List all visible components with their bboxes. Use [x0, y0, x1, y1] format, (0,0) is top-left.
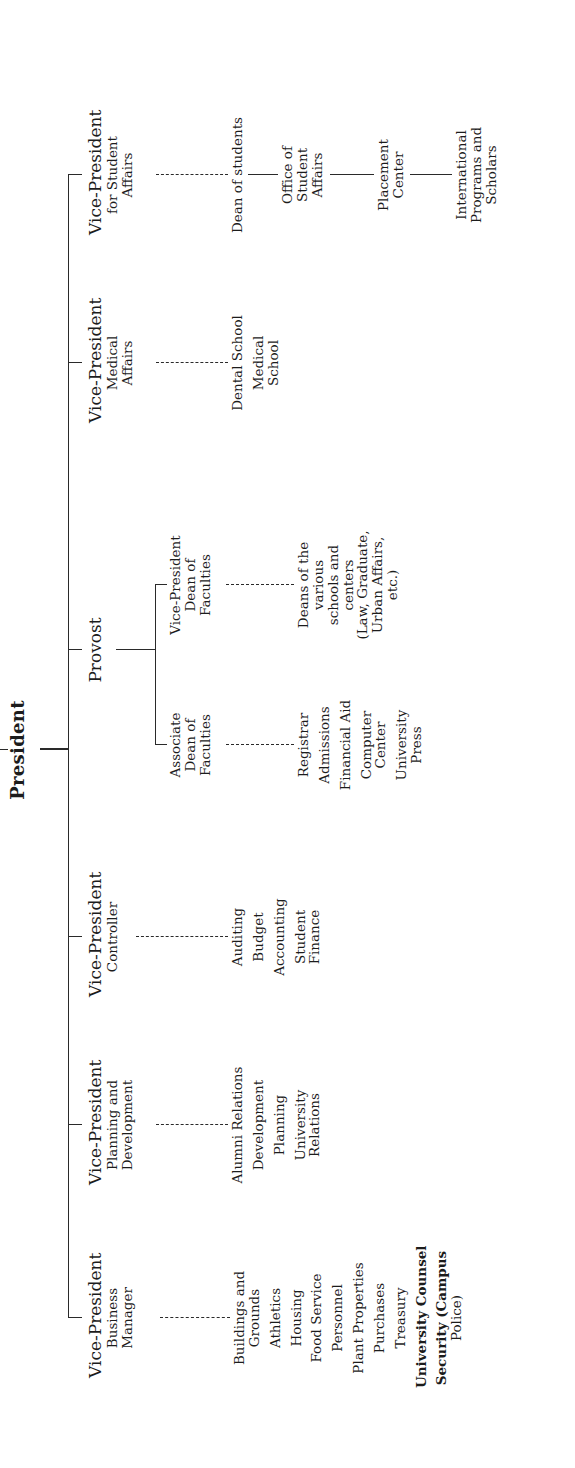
leaf-medical-school-1: Medical — [251, 293, 266, 433]
president-connector-top — [0, 749, 8, 750]
vp-business-manager-sub-1: Business — [105, 1258, 120, 1378]
office-student-affairs-3: Affairs — [310, 105, 325, 245]
drop-provost — [68, 649, 82, 650]
provost-node: Provost — [86, 600, 105, 700]
vp-controller-children: Auditing Budget Accounting Student Finan… — [230, 877, 322, 997]
chain-connector-3 — [410, 174, 452, 175]
leaf-buildings-2: Grounds — [247, 1248, 262, 1388]
vp-controller-node: Vice-President Controller — [86, 877, 120, 997]
international-programs: International Programs and Scholars — [454, 105, 499, 245]
president-node: President — [8, 700, 28, 800]
vp-student-affairs-sub-1: for Student — [105, 115, 120, 235]
international-programs-1: International — [454, 105, 469, 245]
vp-medical-title: Vice-President — [86, 303, 105, 423]
drop-vp-medical — [68, 362, 82, 363]
drop-associate-dean — [155, 744, 167, 745]
leaf-deans-6: Urban Affairs, — [370, 515, 385, 655]
international-programs-2: Programs and — [469, 105, 484, 245]
associate-dean-children: Registrar Admissions Financial Aid Compu… — [296, 675, 424, 815]
leaf-security-2: Police) — [449, 1248, 464, 1388]
leaf-purchases: Purchases — [372, 1248, 387, 1388]
vp-planning-sub-2: Development — [120, 1065, 135, 1185]
vp-student-affairs-sub-2: Affairs — [120, 115, 135, 235]
leaf-deans-3: schools and — [326, 515, 341, 655]
leaf-development: Development — [251, 1055, 266, 1195]
leaf-university-press-2: Press — [409, 675, 424, 815]
dean-of-students: Dean of students — [230, 105, 245, 245]
leaf-university-relations-2: Relations — [307, 1055, 322, 1195]
leaf-deans-2: various — [311, 515, 326, 655]
vp-dean-faculties-line-2: Dean of — [183, 525, 198, 645]
provost-connector — [116, 649, 155, 650]
placement-center: Placement Center — [376, 105, 406, 245]
leaf-buildings-1: Buildings and — [232, 1248, 247, 1388]
vp-medical-children: Dental School Medical School — [230, 293, 281, 433]
vp-business-manager-title: Vice-President — [86, 1258, 105, 1378]
leaf-personnel: Personnel — [330, 1248, 345, 1388]
leaf-planning: Planning — [272, 1055, 287, 1195]
associate-dean-connector — [226, 744, 294, 745]
vp-business-manager-connector — [160, 1317, 230, 1318]
drop-vp-student — [68, 174, 82, 175]
vp-planning-node: Vice-President Planning and Development — [86, 1065, 135, 1185]
vp-dean-faculties-connector — [226, 584, 294, 585]
placement-center-1: Placement — [376, 105, 391, 245]
leaf-budget: Budget — [251, 877, 266, 997]
leaf-athletics: Athletics — [268, 1248, 283, 1388]
vp-controller-title: Vice-President — [86, 877, 105, 997]
vp-medical-connector — [156, 362, 228, 363]
leaf-plant-properties: Plant Properties — [351, 1248, 366, 1388]
vp-medical-sub-2: Affairs — [120, 303, 135, 423]
associate-dean-line-1: Associate — [168, 685, 183, 805]
chain-connector-1 — [248, 174, 278, 175]
vp-dean-faculties-children: Deans of the various schools and centers… — [296, 515, 400, 655]
vp-student-affairs-node: Vice-President for Student Affairs — [86, 115, 135, 235]
leaf-medical-school-2: School — [266, 293, 281, 433]
leaf-deans-5: (Law, Graduate, — [355, 515, 370, 655]
international-programs-3: Scholars — [484, 105, 499, 245]
provost-title: Provost — [86, 600, 105, 700]
org-chart: President Vice-President Business Manage… — [0, 0, 575, 1468]
vp-dean-faculties-line-3: Faculties — [198, 525, 213, 645]
leaf-alumni-relations: Alumni Relations — [230, 1055, 245, 1195]
leaf-university-relations-1: University — [293, 1055, 308, 1195]
leaf-dental-school: Dental School — [230, 293, 245, 433]
president-connector — [40, 748, 68, 750]
leaf-housing: Housing — [289, 1248, 304, 1388]
vp-planning-title: Vice-President — [86, 1065, 105, 1185]
leaf-registrar: Registrar — [296, 675, 311, 815]
drop-vp-dean-faculties — [155, 584, 167, 585]
office-of-student-affairs: Office of Student Affairs — [280, 105, 325, 245]
vp-dean-faculties-line-1: Vice-President — [168, 525, 183, 645]
associate-dean-line-3: Faculties — [198, 685, 213, 805]
leaf-food-service: Food Service — [309, 1248, 324, 1388]
leaf-deans-1: Deans of the — [296, 515, 311, 655]
leaf-computer-center-2: Center — [373, 675, 388, 815]
drop-vp-planning — [68, 1124, 82, 1125]
leaf-university-press-1: University — [394, 675, 409, 815]
dean-of-students-label: Dean of students — [230, 105, 245, 245]
president-title: President — [8, 700, 28, 800]
main-bus-line — [68, 175, 69, 1318]
vp-dean-faculties-node: Vice-President Dean of Faculties — [168, 525, 213, 645]
vp-business-manager-children: Buildings and Grounds Athletics Housing … — [232, 1248, 464, 1388]
leaf-deans-7: etc.) — [385, 515, 400, 655]
vp-controller-sub-1: Controller — [105, 877, 120, 997]
drop-vp-business — [68, 1317, 82, 1318]
leaf-treasury: Treasury — [393, 1248, 408, 1388]
chain-connector-2 — [330, 174, 374, 175]
associate-dean-line-2: Dean of — [183, 685, 198, 805]
placement-center-2: Center — [391, 105, 406, 245]
vp-business-manager-node: Vice-President Business Manager — [86, 1258, 135, 1378]
office-student-affairs-2: Student — [295, 105, 310, 245]
vp-planning-children: Alumni Relations Development Planning Un… — [230, 1055, 322, 1195]
leaf-computer-center-1: Computer — [359, 675, 374, 815]
vp-controller-connector — [136, 936, 228, 937]
leaf-student-finance-2: Finance — [307, 877, 322, 997]
vp-planning-connector — [156, 1124, 228, 1125]
vp-medical-node: Vice-President Medical Affairs — [86, 303, 135, 423]
leaf-financial-aid: Financial Aid — [338, 675, 353, 815]
vp-student-affairs-connector — [156, 174, 228, 175]
leaf-student-finance-1: Student — [293, 877, 308, 997]
leaf-deans-4: centers — [341, 515, 356, 655]
